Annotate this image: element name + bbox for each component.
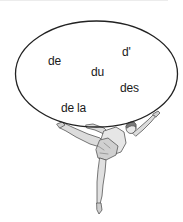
illustration-svg — [0, 0, 183, 222]
illustration: de du d' des de la — [0, 0, 183, 222]
word-d-apostrophe: d' — [122, 46, 131, 58]
word-du: du — [91, 66, 104, 78]
word-de-la: de la — [61, 102, 86, 114]
word-de: de — [48, 55, 61, 67]
word-des: des — [120, 82, 139, 94]
